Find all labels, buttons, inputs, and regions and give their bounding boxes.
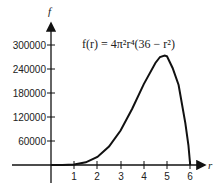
- y-tick-labels: 300000 240000 180000 120000 60000: [13, 40, 47, 147]
- svg-text:6: 6: [187, 171, 193, 182]
- svg-text:2: 2: [94, 171, 100, 182]
- svg-text:180000: 180000: [13, 88, 47, 99]
- svg-text:3: 3: [118, 171, 124, 182]
- svg-text:60000: 60000: [18, 136, 46, 147]
- svg-text:240000: 240000: [13, 64, 47, 75]
- y-axis-label: f: [48, 5, 53, 17]
- svg-text:4: 4: [141, 171, 147, 182]
- function-formula: f(r) = 4π²r⁴(36 − r²): [82, 37, 175, 51]
- svg-text:5: 5: [164, 171, 170, 182]
- x-axis-label: r: [208, 159, 213, 171]
- function-curve: [51, 56, 190, 166]
- svg-text:300000: 300000: [13, 40, 47, 51]
- svg-text:120000: 120000: [13, 112, 47, 123]
- chart: f r 300000 240000 180000 120000 60000 1 …: [0, 0, 216, 187]
- svg-text:1: 1: [71, 171, 77, 182]
- x-tick-labels: 1 2 3 4 5 6: [71, 171, 193, 182]
